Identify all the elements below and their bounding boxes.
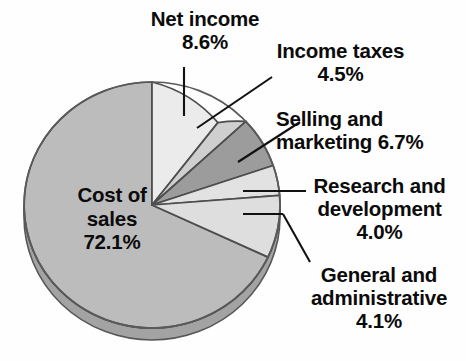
slice-label-income-taxes: Income taxes 4.5% (243, 40, 438, 86)
slice-label-cost-of-sales-line2: sales (52, 207, 172, 231)
slice-label-research-and-development: Research and development 4.0% (293, 175, 466, 244)
slice-label-selling-and-marketing-line1: Selling and (276, 108, 466, 131)
slice-label-research-and-development-line1: Research and (293, 175, 466, 198)
slice-label-cost-of-sales: Cost of sales 72.1% (52, 183, 172, 254)
slice-label-research-and-development-value: 4.0% (293, 221, 466, 244)
slice-label-research-and-development-line2: development (293, 198, 466, 221)
slice-label-net-income-line1: Net income (120, 8, 290, 31)
slice-label-income-taxes-line1: Income taxes (243, 40, 438, 63)
slice-label-selling-and-marketing-line2: marketing 6.7% (276, 131, 466, 154)
slice-label-income-taxes-value: 4.5% (243, 63, 438, 86)
slice-label-general-and-administrative-line1: General and (292, 264, 466, 287)
slice-label-general-and-administrative-value: 4.1% (292, 310, 466, 333)
slice-label-selling-and-marketing: Selling and marketing 6.7% (276, 108, 466, 154)
slice-label-general-and-administrative-line2: administrative (292, 287, 466, 310)
slice-label-cost-of-sales-line1: Cost of (52, 183, 172, 207)
slice-label-cost-of-sales-value: 72.1% (52, 230, 172, 254)
slice-label-general-and-administrative: General and administrative 4.1% (292, 264, 466, 333)
pie-chart-figure: Cost of sales 72.1% Net income 8.6% Inco… (0, 0, 466, 361)
